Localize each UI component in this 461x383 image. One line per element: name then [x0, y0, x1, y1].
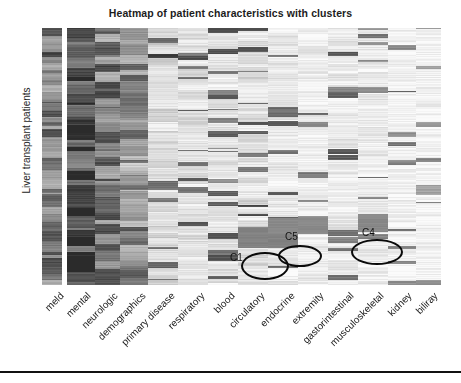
heatmap-column	[416, 28, 441, 285]
heatmap-column	[208, 28, 238, 285]
chart-title: Heatmap of patient characteristics with …	[0, 7, 461, 19]
cluster-label-c4: C4	[362, 227, 375, 238]
footer-divider	[0, 371, 461, 373]
heatmap-column	[148, 28, 178, 285]
cluster-label-c1: C1	[230, 252, 243, 263]
heatmap-column	[42, 28, 62, 285]
heatmap-column	[178, 28, 208, 285]
cluster-label-c5: C5	[285, 231, 298, 242]
cluster-ellipse-c4	[351, 239, 403, 265]
heatmap-column	[95, 28, 120, 285]
heatmap-column	[67, 28, 95, 285]
heatmap-column	[238, 28, 268, 285]
y-axis-label: Liver transplant patients	[21, 51, 32, 231]
cluster-ellipse-c5	[278, 245, 322, 267]
heatmap-column	[120, 28, 148, 285]
heatmap-plot-area: C1C5C4	[42, 28, 441, 285]
